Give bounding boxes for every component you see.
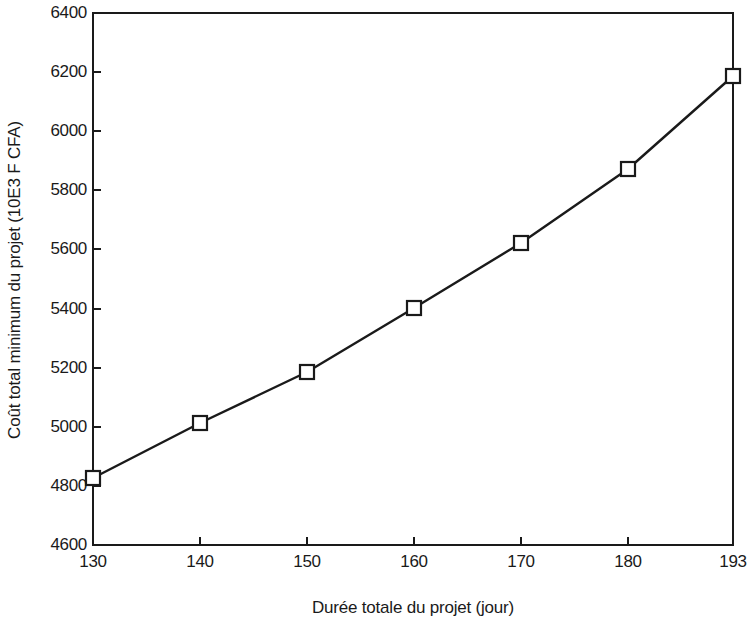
x-tick-label: 140: [165, 552, 235, 572]
chart-figure: Coût total minimum du projet (10E3 F CFA…: [0, 0, 754, 635]
x-tick-label: 193: [698, 552, 754, 572]
x-tick-label: 160: [379, 552, 449, 572]
x-tick-label: 180: [593, 552, 663, 572]
x-axis-title: Durée totale du projet (jour): [93, 598, 733, 618]
x-tick-label: 170: [486, 552, 556, 572]
x-tick-label: 150: [272, 552, 342, 572]
x-axis-tick-labels: 130 140 150 160 170 180 193: [0, 0, 754, 635]
x-tick-label: 130: [58, 552, 128, 572]
